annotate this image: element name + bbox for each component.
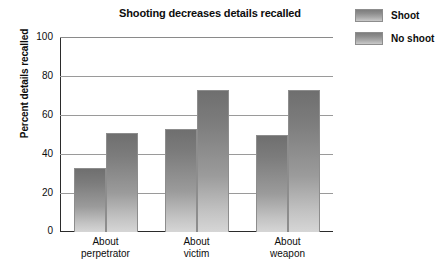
legend-item-no-shoot: No shoot <box>355 29 434 48</box>
x-tick-label-about-weapon: About weapon <box>250 236 326 259</box>
bar-no-shoot-about-victim <box>197 90 229 232</box>
legend-swatch-icon <box>355 32 383 45</box>
y-tick-label-40: 40 <box>1 149 53 159</box>
chart-legend: Shoot No shoot <box>355 6 434 52</box>
x-tick-label-about-victim: About victim <box>159 236 235 259</box>
x-tick-line-1: About <box>250 236 326 248</box>
bar-group-about-victim <box>165 37 229 232</box>
y-tick-label-60: 60 <box>1 110 53 120</box>
y-tick-label-0: 0 <box>1 226 53 236</box>
y-tick-label-20: 20 <box>1 188 53 198</box>
bar-shoot-about-perpetrator <box>74 168 106 232</box>
legend-label-shoot: Shoot <box>391 10 419 21</box>
legend-swatch-icon <box>355 9 383 22</box>
bar-shoot-about-victim <box>165 129 197 232</box>
x-tick-label-about-perpetrator: About perpetrator <box>68 236 144 259</box>
y-tick-label-100: 100 <box>1 32 53 42</box>
x-axis-labels: About perpetrator About victim About wea… <box>60 236 333 259</box>
bar-group-about-weapon <box>256 37 320 232</box>
x-tick-line-2: weapon <box>250 248 326 260</box>
x-tick-line-1: About <box>68 236 144 248</box>
chart-title: Shooting decreases details recalled <box>95 7 325 19</box>
y-tick-label-80: 80 <box>1 71 53 81</box>
x-tick-line-2: victim <box>159 248 235 260</box>
legend-label-no-shoot: No shoot <box>391 33 434 44</box>
plot-area: 100 80 60 40 20 0 <box>60 37 333 232</box>
bar-no-shoot-about-weapon <box>288 90 320 232</box>
bar-shoot-about-weapon <box>256 135 288 233</box>
x-tick-line-1: About <box>159 236 235 248</box>
bar-group-about-perpetrator <box>74 37 138 232</box>
legend-item-shoot: Shoot <box>355 6 434 25</box>
y-axis-label: Percent details recalled <box>19 4 30 164</box>
bar-no-shoot-about-perpetrator <box>106 133 138 232</box>
bar-series-container <box>60 37 333 232</box>
x-tick-line-2: perpetrator <box>68 248 144 260</box>
chart-figure: Shooting decreases details recalled Perc… <box>0 0 447 277</box>
